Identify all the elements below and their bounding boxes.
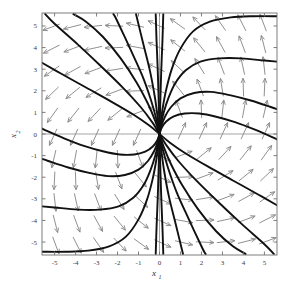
svg-text:x: x <box>151 268 156 278</box>
y-tick-label: -1 <box>31 152 37 160</box>
x-tick-label: 1 <box>179 259 183 267</box>
svg-text:1: 1 <box>159 274 162 280</box>
y-tick-label: 0 <box>34 131 38 139</box>
quiver-arrow-shaft <box>105 47 123 48</box>
y-tick-label: 1 <box>34 109 38 117</box>
quiver-arrow-shaft <box>243 78 244 96</box>
y-tick-label: -5 <box>31 239 37 247</box>
phase-portrait-svg: -5-4-3-2-1012345-5-4-3-2-1012345 x 1 x 2 <box>0 0 293 293</box>
x-tick-label: -4 <box>73 259 79 267</box>
y-tick-label: -4 <box>31 217 37 225</box>
x-tick-label: -5 <box>52 259 58 267</box>
quiver-arrow-shaft <box>201 100 202 118</box>
x-tick-label: -1 <box>136 259 142 267</box>
x-tick-label: 0 <box>158 259 162 267</box>
x-tick-label: 3 <box>221 259 225 267</box>
x-tick-label: -2 <box>115 259 121 267</box>
figure-root: -5-4-3-2-1012345-5-4-3-2-1012345 x 1 x 2 <box>0 0 293 293</box>
x-tick-label: 5 <box>263 259 267 267</box>
y-tick-label: 4 <box>34 44 38 52</box>
svg-text:x: x <box>8 134 18 139</box>
y-tick-label: 2 <box>34 87 38 95</box>
quiver-arrow-shaft <box>117 150 118 168</box>
quiver-arrow-shaft <box>75 172 76 190</box>
x-tick-label: 2 <box>200 259 204 267</box>
y-tick-label: 5 <box>34 22 38 30</box>
quiver-arrow-shaft <box>196 220 214 221</box>
y-tick-label: 3 <box>34 66 38 74</box>
x-tick-label: 4 <box>242 259 246 267</box>
x-tick-label: -3 <box>94 259 100 267</box>
y-tick-label: -2 <box>31 174 37 182</box>
y-tick-label: -3 <box>31 195 37 203</box>
svg-text:2: 2 <box>15 131 21 134</box>
